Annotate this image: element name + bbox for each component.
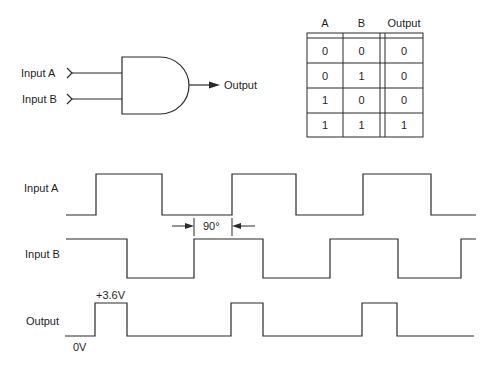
gate-output-label: Output	[224, 79, 257, 92]
truth-table-cell: 0	[343, 94, 380, 107]
output-high-voltage-label: +3.6V	[96, 289, 125, 302]
truth-table-cell: 0	[385, 70, 423, 83]
waveform-input-b	[66, 239, 476, 278]
timing-label-output: Output	[26, 315, 59, 328]
output-arrowhead-icon	[209, 82, 220, 89]
truth-table-cell: 1	[307, 94, 343, 107]
timing-label-input-b: Input B	[25, 248, 60, 261]
truth-table-cell: 1	[385, 119, 423, 132]
truth-table-cell: 1	[343, 119, 380, 132]
truth-table-header-output: Output	[385, 17, 423, 30]
truth-table-cell: 0	[343, 45, 380, 58]
gate-input-a-label: Input A	[21, 67, 55, 80]
phase-arrow-left-icon	[232, 223, 241, 229]
truth-table-cell: 0	[307, 45, 343, 58]
and-gate-symbol	[67, 57, 210, 114]
phase-arrow-right-icon	[185, 223, 194, 229]
phase-degrees-label: 90°	[203, 220, 220, 233]
truth-table-cell: 0	[385, 94, 423, 107]
and-gate-body-icon	[122, 57, 189, 114]
output-low-voltage-label: 0V	[73, 341, 86, 354]
truth-table-cell: 1	[307, 119, 343, 132]
input-b-connector-icon	[67, 94, 72, 104]
truth-table-cell: 0	[385, 45, 423, 58]
waveform-input-a	[66, 174, 476, 215]
gate-input-b-label: Input B	[22, 93, 57, 106]
truth-table-cell: 1	[343, 70, 380, 83]
timing-waveforms	[65, 174, 476, 336]
truth-table-header-b: B	[343, 17, 380, 30]
waveform-output	[65, 303, 474, 336]
truth-table-cell: 0	[307, 70, 343, 83]
timing-label-input-a: Input A	[24, 182, 58, 195]
truth-table-header-a: A	[307, 17, 343, 30]
input-a-connector-icon	[67, 68, 72, 78]
